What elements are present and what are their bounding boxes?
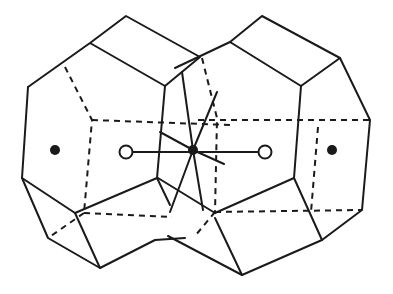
polyhedra-diagram [0,0,393,294]
filled-site-center [188,145,198,155]
filled-site-left [50,145,60,155]
filled-site-right [327,145,337,155]
open-site-right [259,146,272,159]
left-polyhedron [22,16,200,268]
open-site-left [120,146,133,159]
